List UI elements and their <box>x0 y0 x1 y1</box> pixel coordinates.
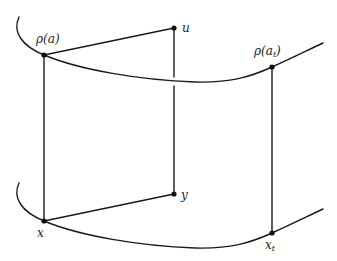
label-x-t: xt <box>265 239 275 253</box>
point-x-t <box>269 230 274 235</box>
label-rho-at: ρ(at) <box>254 45 281 59</box>
point-u <box>171 25 176 30</box>
label-x: x <box>37 227 44 239</box>
label-rho-at-base: ρ(a <box>254 44 273 58</box>
label-x-t-sub: t <box>272 244 275 253</box>
lower-curve <box>17 183 323 248</box>
label-u: u <box>182 22 190 34</box>
diagram-canvas: ρ(a) u ρ(at) y x xt <box>0 0 337 261</box>
point-x <box>41 218 46 223</box>
label-x-t-base: x <box>265 238 272 252</box>
label-rho-at-close: ) <box>276 44 281 58</box>
label-rho-a: ρ(a) <box>36 33 60 45</box>
label-y: y <box>181 189 188 201</box>
segment-x-to-y <box>44 194 174 221</box>
segment-rho-a-to-u <box>44 28 174 55</box>
point-y <box>171 191 176 196</box>
point-rho-a <box>41 52 46 57</box>
point-rho-at <box>269 64 274 69</box>
